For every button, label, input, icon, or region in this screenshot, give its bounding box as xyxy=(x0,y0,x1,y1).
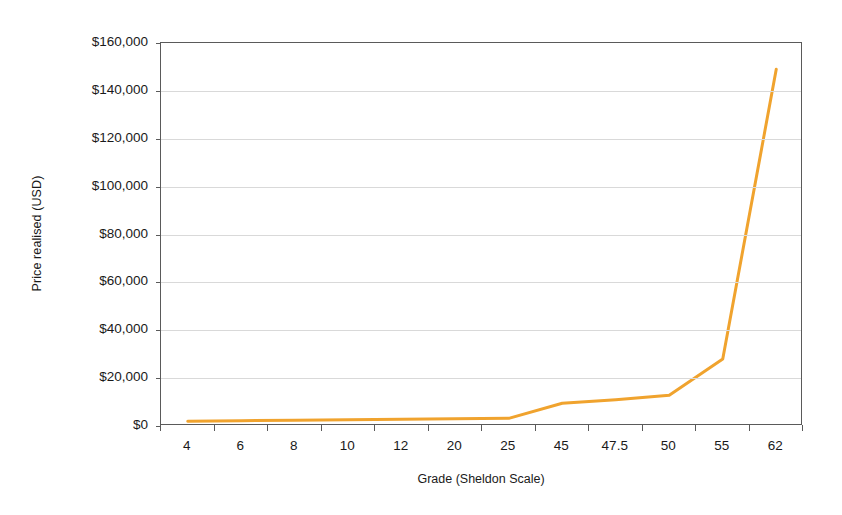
y-axis-tick-label: $120,000 xyxy=(40,131,148,145)
plot-area xyxy=(160,42,802,425)
gridline xyxy=(161,139,801,140)
y-axis-tick-mark xyxy=(156,426,161,427)
x-axis-tick-label: 20 xyxy=(447,437,462,454)
gridline xyxy=(161,187,801,188)
x-axis-tick-label: 47.5 xyxy=(602,437,628,454)
y-axis-tick-label: $160,000 xyxy=(40,35,148,49)
x-axis-tick-label: 50 xyxy=(661,437,676,454)
data-series-line xyxy=(188,69,777,421)
gridline xyxy=(161,378,801,379)
x-axis-tick-label: 55 xyxy=(714,437,729,454)
y-axis-tick-mark xyxy=(156,378,161,379)
x-axis-tick-label: 10 xyxy=(340,437,355,454)
y-axis-tick-mark xyxy=(156,235,161,236)
x-axis-tick-label: 62 xyxy=(768,437,783,454)
y-axis-tick-label: $40,000 xyxy=(40,322,148,336)
x-axis-tick-label: 12 xyxy=(393,437,408,454)
x-axis-title: Grade (Sheldon Scale) xyxy=(160,470,802,488)
x-axis-tick-label: 6 xyxy=(236,437,244,454)
x-axis-tick-label: 25 xyxy=(500,437,515,454)
y-axis-tick-label: $20,000 xyxy=(40,370,148,384)
gridline xyxy=(161,282,801,283)
y-axis-tick-label: $80,000 xyxy=(40,227,148,241)
x-axis-tick-label: 45 xyxy=(554,437,569,454)
y-axis-tick-labels: $0$20,000$40,000$60,000$80,000$100,000$1… xyxy=(40,0,148,515)
y-axis-tick-mark xyxy=(156,91,161,92)
line-chart: Price realised (USD) $0$20,000$40,000$60… xyxy=(0,0,842,515)
gridline xyxy=(161,330,801,331)
y-axis-tick-mark xyxy=(156,282,161,283)
x-axis-tick-labels: 468101220254547.5505562 xyxy=(160,437,802,457)
y-axis-tick-mark xyxy=(156,187,161,188)
y-axis-tick-label: $140,000 xyxy=(40,83,148,97)
gridline xyxy=(161,235,801,236)
x-axis-tick-label: 8 xyxy=(290,437,298,454)
y-axis-tick-label: $0 xyxy=(40,418,148,432)
gridline xyxy=(161,91,801,92)
x-axis-tick-marks xyxy=(160,425,802,432)
y-axis-tick-label: $60,000 xyxy=(40,274,148,288)
y-axis-tick-mark xyxy=(156,43,161,44)
y-axis-tick-mark xyxy=(156,330,161,331)
y-axis-tick-label: $100,000 xyxy=(40,179,148,193)
y-axis-tick-mark xyxy=(156,139,161,140)
x-axis-tick-label: 4 xyxy=(183,437,191,454)
